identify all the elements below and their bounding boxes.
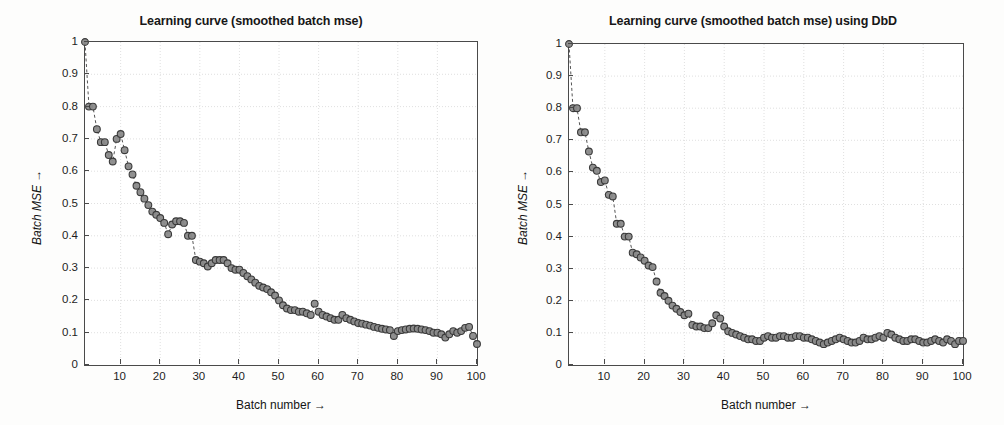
- y-tick-mark: [84, 332, 89, 333]
- x-tick-mark: [882, 359, 883, 364]
- y-tick-label: 0.9: [532, 69, 562, 81]
- x-tick-label: 40: [717, 370, 730, 382]
- y-tick-label: 0.6: [532, 165, 562, 177]
- y-tick-label: 1: [48, 35, 78, 47]
- x-tick-mark: [922, 359, 923, 364]
- y-tick-mark: [568, 43, 573, 44]
- x-tick-label: 30: [192, 370, 205, 382]
- y-tick-mark: [568, 300, 573, 301]
- x-tick-label: 70: [836, 370, 849, 382]
- y-tick-mark: [84, 267, 89, 268]
- plot-area-right: [568, 43, 964, 366]
- y-tick-label: 0.4: [532, 230, 562, 242]
- x-tick-label: 30: [677, 370, 690, 382]
- x-tick-label: 80: [876, 370, 889, 382]
- y-tick-mark: [84, 203, 89, 204]
- x-tick-mark: [723, 359, 724, 364]
- x-tick-mark: [120, 359, 121, 364]
- x-tick-label: 10: [597, 370, 610, 382]
- y-tick-mark: [568, 236, 573, 237]
- x-tick-label: 100: [952, 370, 971, 382]
- x-tick-label: 60: [311, 370, 324, 382]
- x-tick-label: 40: [232, 370, 245, 382]
- x-tick-mark: [278, 359, 279, 364]
- chart-panel-right: Learning curve (smoothed batch mse) usin…: [502, 0, 1004, 425]
- y-tick-label: 0.3: [532, 262, 562, 274]
- chart-panel-left: Learning curve (smoothed batch mse) 00.1…: [0, 0, 502, 425]
- x-axis-title-left: Batch number →: [84, 398, 478, 412]
- x-tick-mark: [476, 359, 477, 364]
- y-tick-mark: [568, 171, 573, 172]
- x-tick-mark: [843, 359, 844, 364]
- y-tick-label: 0.8: [532, 101, 562, 113]
- y-tick-label: 0.2: [532, 294, 562, 306]
- figure-page: Learning curve (smoothed batch mse) 00.1…: [0, 0, 1004, 425]
- y-tick-mark: [568, 268, 573, 269]
- y-tick-mark: [568, 139, 573, 140]
- chart-title-left: Learning curve (smoothed batch mse): [0, 14, 502, 28]
- y-tick-label: 0.5: [48, 197, 78, 209]
- y-tick-mark: [568, 204, 573, 205]
- y-tick-label: 0.8: [48, 100, 78, 112]
- x-tick-mark: [644, 359, 645, 364]
- y-tick-mark: [568, 107, 573, 108]
- y-tick-mark: [568, 75, 573, 76]
- y-tick-label: 0.7: [48, 132, 78, 144]
- x-tick-mark: [604, 359, 605, 364]
- y-tick-label: 0.6: [48, 164, 78, 176]
- y-axis-title-left: Batch MSE →: [30, 170, 44, 245]
- x-tick-label: 20: [153, 370, 166, 382]
- x-tick-mark: [803, 359, 804, 364]
- x-tick-mark: [962, 359, 963, 364]
- x-tick-label: 90: [916, 370, 929, 382]
- y-tick-label: 0: [532, 358, 562, 370]
- y-tick-label: 0.9: [48, 67, 78, 79]
- y-tick-mark: [84, 364, 89, 365]
- data-series-right: [569, 44, 963, 365]
- y-tick-mark: [84, 106, 89, 107]
- y-tick-label: 0.1: [532, 326, 562, 338]
- x-tick-mark: [318, 359, 319, 364]
- y-tick-label: 0.5: [532, 198, 562, 210]
- x-tick-label: 20: [637, 370, 650, 382]
- x-axis-title-right: Batch number →: [568, 398, 964, 412]
- x-tick-label: 80: [390, 370, 403, 382]
- y-axis-title-right: Batch MSE →: [516, 170, 530, 245]
- data-series-left: [85, 42, 477, 365]
- x-tick-mark: [357, 359, 358, 364]
- y-tick-label: 0.2: [48, 293, 78, 305]
- x-tick-label: 60: [796, 370, 809, 382]
- y-tick-mark: [84, 299, 89, 300]
- y-tick-label: 0.3: [48, 261, 78, 273]
- x-tick-mark: [159, 359, 160, 364]
- x-tick-label: 50: [272, 370, 285, 382]
- y-tick-mark: [84, 170, 89, 171]
- y-tick-mark: [84, 235, 89, 236]
- y-tick-label: 0.7: [532, 133, 562, 145]
- y-tick-label: 1: [532, 37, 562, 49]
- y-tick-mark: [84, 138, 89, 139]
- x-tick-mark: [397, 359, 398, 364]
- chart-title-right: Learning curve (smoothed batch mse) usin…: [502, 14, 1004, 28]
- x-tick-mark: [238, 359, 239, 364]
- y-tick-mark: [568, 332, 573, 333]
- x-tick-label: 90: [430, 370, 443, 382]
- y-tick-mark: [84, 73, 89, 74]
- x-tick-label: 50: [757, 370, 770, 382]
- plot-area-left: [84, 41, 478, 366]
- y-tick-label: 0: [48, 358, 78, 370]
- x-tick-label: 70: [351, 370, 364, 382]
- x-tick-label: 10: [113, 370, 126, 382]
- x-tick-mark: [683, 359, 684, 364]
- x-tick-mark: [763, 359, 764, 364]
- x-tick-mark: [199, 359, 200, 364]
- y-tick-label: 0.4: [48, 229, 78, 241]
- y-tick-mark: [84, 41, 89, 42]
- y-tick-label: 0.1: [48, 326, 78, 338]
- x-tick-mark: [436, 359, 437, 364]
- x-tick-label: 100: [466, 370, 485, 382]
- y-tick-mark: [568, 364, 573, 365]
